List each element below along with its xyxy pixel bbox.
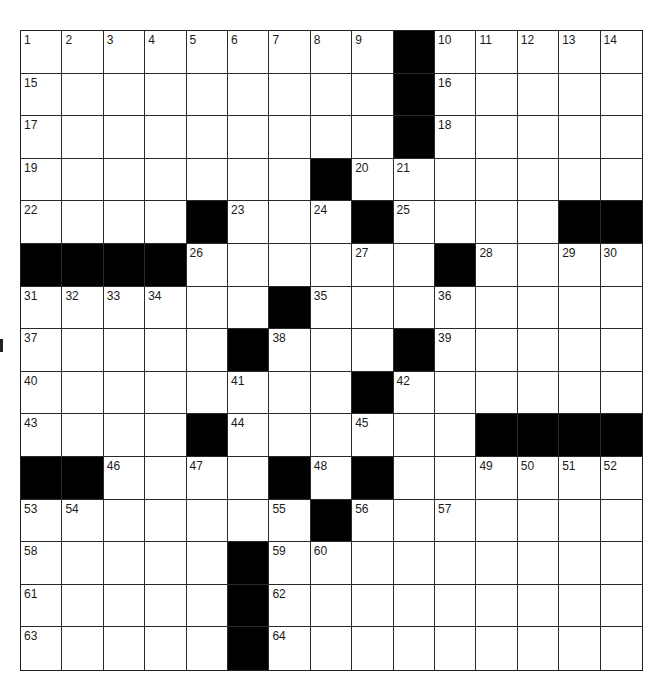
grid-cell[interactable] xyxy=(559,542,600,585)
grid-cell[interactable]: 43 xyxy=(21,414,62,457)
grid-cell[interactable] xyxy=(311,116,352,159)
grid-cell[interactable] xyxy=(311,372,352,415)
grid-cell[interactable] xyxy=(601,116,642,159)
grid-cell[interactable] xyxy=(352,74,393,117)
grid-cell[interactable] xyxy=(62,116,103,159)
grid-cell[interactable] xyxy=(601,627,642,670)
grid-cell[interactable] xyxy=(435,201,476,244)
grid-cell[interactable] xyxy=(187,159,228,202)
grid-cell[interactable] xyxy=(559,116,600,159)
grid-cell[interactable] xyxy=(145,372,186,415)
grid-cell[interactable]: 20 xyxy=(352,159,393,202)
grid-cell[interactable] xyxy=(601,74,642,117)
grid-cell[interactable]: 49 xyxy=(476,457,517,500)
grid-cell[interactable] xyxy=(559,500,600,543)
grid-cell[interactable]: 57 xyxy=(435,500,476,543)
grid-cell[interactable] xyxy=(187,585,228,628)
grid-cell[interactable]: 51 xyxy=(559,457,600,500)
grid-cell[interactable]: 15 xyxy=(21,74,62,117)
grid-cell[interactable]: 31 xyxy=(21,287,62,330)
grid-cell[interactable]: 41 xyxy=(228,372,269,415)
grid-cell[interactable] xyxy=(559,585,600,628)
grid-cell[interactable] xyxy=(601,585,642,628)
grid-cell[interactable] xyxy=(311,585,352,628)
grid-cell[interactable] xyxy=(104,414,145,457)
grid-cell[interactable]: 64 xyxy=(269,627,310,670)
grid-cell[interactable] xyxy=(394,542,435,585)
grid-cell[interactable] xyxy=(518,585,559,628)
grid-cell[interactable] xyxy=(145,627,186,670)
grid-cell[interactable] xyxy=(394,585,435,628)
grid-cell[interactable] xyxy=(228,244,269,287)
grid-cell[interactable] xyxy=(559,372,600,415)
grid-cell[interactable] xyxy=(601,287,642,330)
grid-cell[interactable]: 56 xyxy=(352,500,393,543)
grid-cell[interactable] xyxy=(518,627,559,670)
grid-cell[interactable] xyxy=(104,372,145,415)
grid-cell[interactable] xyxy=(145,159,186,202)
grid-cell[interactable] xyxy=(187,372,228,415)
grid-cell[interactable] xyxy=(476,329,517,372)
grid-cell[interactable] xyxy=(518,116,559,159)
grid-cell[interactable]: 2 xyxy=(62,31,103,74)
grid-cell[interactable] xyxy=(601,159,642,202)
grid-cell[interactable] xyxy=(104,159,145,202)
grid-cell[interactable] xyxy=(476,116,517,159)
grid-cell[interactable] xyxy=(228,159,269,202)
grid-cell[interactable]: 60 xyxy=(311,542,352,585)
grid-cell[interactable] xyxy=(601,329,642,372)
grid-cell[interactable] xyxy=(145,329,186,372)
grid-cell[interactable] xyxy=(476,159,517,202)
grid-cell[interactable] xyxy=(187,116,228,159)
grid-cell[interactable] xyxy=(228,116,269,159)
grid-cell[interactable] xyxy=(62,414,103,457)
grid-cell[interactable] xyxy=(476,287,517,330)
grid-cell[interactable]: 37 xyxy=(21,329,62,372)
grid-cell[interactable]: 46 xyxy=(104,457,145,500)
grid-cell[interactable] xyxy=(62,585,103,628)
grid-cell[interactable] xyxy=(104,627,145,670)
grid-cell[interactable] xyxy=(228,74,269,117)
grid-cell[interactable]: 29 xyxy=(559,244,600,287)
grid-cell[interactable] xyxy=(104,329,145,372)
grid-cell[interactable] xyxy=(518,287,559,330)
grid-cell[interactable] xyxy=(518,542,559,585)
grid-cell[interactable]: 22 xyxy=(21,201,62,244)
grid-cell[interactable] xyxy=(228,287,269,330)
grid-cell[interactable]: 26 xyxy=(187,244,228,287)
grid-cell[interactable] xyxy=(62,372,103,415)
grid-cell[interactable]: 8 xyxy=(311,31,352,74)
grid-cell[interactable] xyxy=(394,500,435,543)
grid-cell[interactable] xyxy=(394,627,435,670)
grid-cell[interactable] xyxy=(104,500,145,543)
grid-cell[interactable] xyxy=(187,329,228,372)
grid-cell[interactable] xyxy=(187,542,228,585)
grid-cell[interactable] xyxy=(476,500,517,543)
grid-cell[interactable] xyxy=(559,287,600,330)
grid-cell[interactable] xyxy=(559,627,600,670)
grid-cell[interactable] xyxy=(269,159,310,202)
grid-cell[interactable] xyxy=(145,201,186,244)
grid-cell[interactable] xyxy=(559,74,600,117)
grid-cell[interactable] xyxy=(476,201,517,244)
grid-cell[interactable] xyxy=(476,372,517,415)
grid-cell[interactable] xyxy=(559,329,600,372)
grid-cell[interactable] xyxy=(104,116,145,159)
grid-cell[interactable] xyxy=(187,500,228,543)
grid-cell[interactable] xyxy=(394,287,435,330)
grid-cell[interactable] xyxy=(601,542,642,585)
grid-cell[interactable]: 14 xyxy=(601,31,642,74)
grid-cell[interactable] xyxy=(311,414,352,457)
grid-cell[interactable] xyxy=(352,627,393,670)
grid-cell[interactable]: 40 xyxy=(21,372,62,415)
grid-cell[interactable]: 59 xyxy=(269,542,310,585)
grid-cell[interactable]: 58 xyxy=(21,542,62,585)
grid-cell[interactable]: 27 xyxy=(352,244,393,287)
grid-cell[interactable] xyxy=(62,74,103,117)
grid-cell[interactable] xyxy=(104,585,145,628)
grid-cell[interactable] xyxy=(601,372,642,415)
grid-cell[interactable] xyxy=(187,74,228,117)
grid-cell[interactable] xyxy=(187,627,228,670)
grid-cell[interactable]: 28 xyxy=(476,244,517,287)
grid-cell[interactable]: 47 xyxy=(187,457,228,500)
